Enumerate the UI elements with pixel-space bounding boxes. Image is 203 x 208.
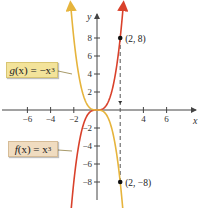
points: (2, 8)(2, −8): [118, 34, 151, 189]
y-tick-label: −8: [82, 177, 92, 187]
y-tick-label: −4: [82, 141, 92, 151]
g-function-label: g(x) = −x3: [6, 62, 58, 78]
x-tick-label: −6: [23, 114, 33, 124]
curve-g-left: [71, 3, 97, 110]
y-tick-label: 8: [88, 33, 93, 43]
y-tick-label: 4: [88, 69, 93, 79]
curve-g-right: [97, 110, 123, 208]
g-func-rest: (x) = −x: [15, 64, 51, 76]
tick-labels: xy−6−4−2468642−2−4−6−8: [23, 11, 198, 187]
point-label: (2, −8): [125, 178, 151, 189]
point-marker: [118, 36, 123, 41]
reflection-arrow-icon: [118, 101, 122, 104]
y-tick-label: −6: [82, 159, 92, 169]
curve-f-right: [97, 3, 123, 110]
x-tick-label: −4: [46, 114, 56, 124]
y-tick-label: 2: [88, 87, 93, 97]
x-tick-label: 4: [141, 114, 146, 124]
f-func-rest: (x) = x: [18, 143, 48, 155]
x-tick-label: −2: [69, 114, 79, 124]
x-axis-label: x: [192, 115, 198, 126]
f-function-label: f(x) = x3: [8, 141, 58, 157]
point-marker: [118, 180, 123, 185]
cubic-reflection-chart: xy−6−4−2468642−2−4−6−8 (2, 8)(2, −8): [0, 0, 203, 208]
x-tick-label: 6: [164, 114, 169, 124]
axes: [2, 14, 196, 200]
y-axis-label: y: [86, 11, 92, 22]
point-label: (2, 8): [125, 34, 146, 45]
y-tick-label: 6: [88, 51, 93, 61]
